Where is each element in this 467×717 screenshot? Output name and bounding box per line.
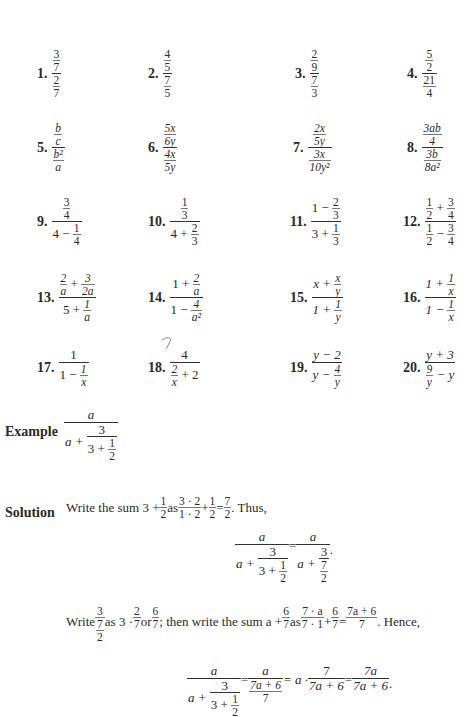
- problem-number: 19.: [290, 360, 308, 376]
- complex-fraction: 34 4 − 14: [52, 196, 82, 247]
- complex-fraction: y + 3 9y − y: [425, 348, 456, 388]
- problem-6: 6. 5x6y 4x5y: [148, 122, 177, 173]
- problem-3: 3. 29 73: [295, 48, 319, 99]
- complex-fraction: x + xy 1 + 1y: [312, 272, 344, 323]
- problem-2: 2. 45 75: [148, 48, 172, 99]
- problem-number: 2.: [148, 66, 159, 82]
- problem-1: 1. 37 27: [37, 48, 61, 99]
- complex-fraction: 2a + 32a 5 + 1a: [59, 272, 96, 323]
- complex-fraction: 3ab4 3b8a²: [422, 122, 443, 173]
- complex-fraction: 1 1 − 1x: [59, 348, 89, 388]
- problem-number: 18.: [148, 360, 166, 376]
- problem-number: 1.: [37, 66, 48, 82]
- example-expression: a a + 33 + 12: [64, 408, 118, 462]
- complex-fraction: 5x6y 4x5y: [163, 122, 178, 173]
- problem-number: 4.: [407, 66, 418, 82]
- problem-number: 13.: [37, 290, 55, 306]
- problem-16: 16. 1 + 1x 1 − 1x: [403, 272, 456, 323]
- complex-fraction: 29 73: [310, 48, 320, 99]
- problem-number: 16.: [403, 290, 421, 306]
- problem-number: 5.: [37, 140, 48, 156]
- solution-line-2: Write 372 as 3 · 27 or 67 ; then write t…: [66, 605, 420, 643]
- problem-14: 14. 1 + 2a 1 − 4a²: [148, 272, 203, 323]
- problem-8: 8. 3ab4 3b8a²: [407, 122, 443, 173]
- problem-number: 15.: [290, 290, 308, 306]
- problem-12: 12. 12 + 34 12 − 34: [403, 196, 456, 247]
- solution-equation-1: a a + 33 + 12 = a a + 372 .: [235, 530, 333, 584]
- problem-number: 7.: [293, 140, 304, 156]
- problem-number: 10.: [148, 214, 166, 230]
- problem-number: 14.: [148, 290, 166, 306]
- problem-9: 9. 34 4 − 14: [37, 196, 82, 247]
- complex-fraction: 4 2x + 2: [170, 348, 200, 388]
- problem-18: 18. 4 2x + 2: [148, 348, 200, 388]
- problem-4: 4. 52 214: [407, 48, 437, 99]
- complex-fraction: 1 + 1x 1 − 1x: [425, 272, 457, 323]
- problem-11: 11. 1 − 23 3 + 13: [290, 196, 341, 247]
- problem-number: 3.: [295, 66, 306, 82]
- complex-fraction: 45 75: [163, 48, 173, 99]
- complex-fraction: bc b²a: [52, 122, 65, 173]
- example-label: Example: [5, 424, 58, 440]
- problem-number: 12.: [403, 214, 421, 230]
- problem-number: 17.: [37, 360, 55, 376]
- complex-fraction: 52 214: [422, 48, 438, 99]
- problem-number: 8.: [407, 140, 418, 156]
- solution-label: Solution: [5, 505, 55, 521]
- problem-17: 17. 1 1 − 1x: [37, 348, 89, 388]
- complex-fraction: 1 + 2a 1 − 4a²: [170, 272, 204, 323]
- problem-number: 6.: [148, 140, 159, 156]
- problem-number: 9.: [37, 214, 48, 230]
- problem-5: 5. bc b²a: [37, 122, 65, 173]
- complex-fraction: 13 4 + 23: [170, 196, 200, 247]
- problem-13: 13. 2a + 32a 5 + 1a: [37, 272, 96, 323]
- problem-number: 20.: [403, 360, 421, 376]
- complex-fraction: 37 27: [52, 48, 62, 99]
- solution-equation-2: a a + 33 + 12 = a 7a + 67 = a · 77a + 6 …: [187, 664, 392, 717]
- problem-number: 11.: [290, 214, 307, 230]
- problem-15: 15. x + xy 1 + 1y: [290, 272, 343, 323]
- continued-fraction: a a + 33 + 12: [64, 408, 118, 462]
- complex-fraction: 1 − 23 3 + 13: [311, 196, 341, 247]
- solution-line-1: Write the sum 3 + 12 as 3 · 21 · 2 + 12 …: [66, 495, 267, 520]
- problem-7: 7. 2x5y 3x10y²: [293, 122, 332, 173]
- complex-fraction: 2x5y 3x10y²: [308, 122, 332, 173]
- complex-fraction: 12 + 34 12 − 34: [425, 196, 456, 247]
- problem-19: 19. y − 2 y − 4y: [290, 348, 342, 388]
- problem-10: 10. 13 4 + 23: [148, 196, 200, 247]
- complex-fraction: y − 2 y − 4y: [312, 348, 343, 388]
- problem-20: 20. y + 3 9y − y: [403, 348, 455, 388]
